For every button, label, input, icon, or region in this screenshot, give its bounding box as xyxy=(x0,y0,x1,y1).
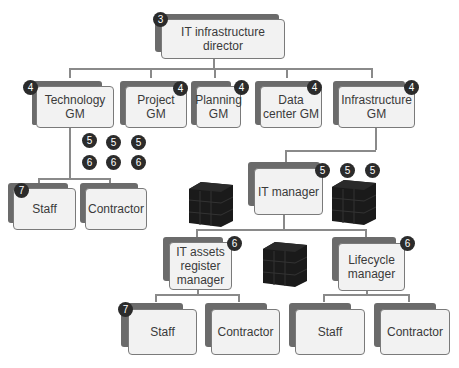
level-badge: 6 xyxy=(82,155,97,170)
contractor-label: Contractor xyxy=(85,188,147,230)
connector xyxy=(286,68,288,78)
connector xyxy=(69,68,71,78)
connector xyxy=(69,128,71,178)
staff-label: Staff xyxy=(128,309,197,355)
level-badge: 4 xyxy=(234,80,249,95)
level-badge: 5 xyxy=(82,133,97,148)
level-badge: 4 xyxy=(173,81,188,96)
contractor-label: Contractor xyxy=(380,309,450,355)
connector xyxy=(155,294,157,302)
director-label: IT infrastructure director xyxy=(161,19,285,59)
level-badge: 5 xyxy=(365,163,380,178)
level-badge: 6 xyxy=(400,236,415,251)
connector xyxy=(283,214,285,229)
level-badge: 5 xyxy=(106,135,121,150)
connector xyxy=(285,150,376,152)
cube-graphic xyxy=(330,179,378,229)
connector xyxy=(323,294,409,296)
connector xyxy=(285,150,287,162)
level-badge: 5 xyxy=(131,135,146,150)
level-badge: 6 xyxy=(106,155,121,170)
connector xyxy=(150,68,152,78)
level-badge: 5 xyxy=(315,163,330,178)
connector xyxy=(408,294,410,302)
level-badge: 3 xyxy=(153,12,168,27)
connector xyxy=(371,68,373,78)
level-badge: 5 xyxy=(340,163,355,178)
connector xyxy=(375,128,377,150)
planning-gm-label: Planning GM xyxy=(196,86,241,128)
connector xyxy=(213,58,215,68)
connector xyxy=(238,294,240,302)
contractor-label: Contractor xyxy=(211,309,280,355)
connector xyxy=(38,178,110,180)
level-badge: 4 xyxy=(404,80,419,95)
technology-gm-label: Technology GM xyxy=(36,86,114,128)
level-badge: 7 xyxy=(118,302,133,317)
connector xyxy=(69,68,372,70)
level-badge: 4 xyxy=(23,80,38,95)
it-assets-register-manager-label: IT assets register manager xyxy=(169,242,232,290)
level-badge: 6 xyxy=(131,155,146,170)
infrastructure-gm-label: Infrastructure GM xyxy=(338,86,415,128)
staff-label: Staff xyxy=(295,309,365,355)
cube-graphic xyxy=(187,181,235,231)
connector xyxy=(155,294,239,296)
connector xyxy=(323,294,325,302)
it-manager-label: IT manager xyxy=(254,168,323,215)
lifecycle-manager-label: Lifecycle manager xyxy=(338,243,405,291)
level-badge: 4 xyxy=(307,80,322,95)
level-badge: 7 xyxy=(14,183,29,198)
connector xyxy=(214,68,216,78)
cube-graphic xyxy=(261,241,309,291)
level-badge: 6 xyxy=(227,236,242,251)
